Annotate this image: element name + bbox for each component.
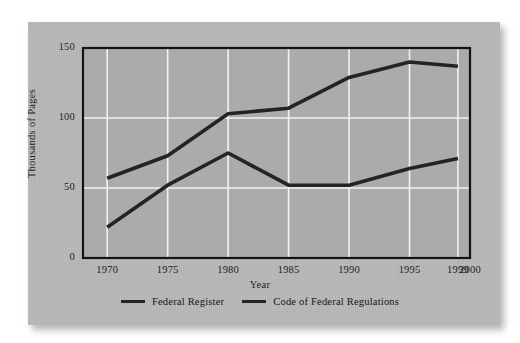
y-tick-label: 100 [41, 111, 75, 122]
x-tick-label: 1990 [324, 264, 374, 275]
line-chart-figure: 050100150 197019751980198519901995199920… [0, 0, 520, 343]
y-tick-label: 150 [41, 41, 75, 52]
legend-item-1[interactable]: Federal Register [121, 296, 224, 307]
chart-plot-area [0, 0, 520, 343]
y-tick-label: 0 [41, 251, 75, 262]
x-tick-label: 1970 [82, 264, 132, 275]
x-tick-label: 2000 [445, 264, 495, 275]
x-tick-label: 1980 [203, 264, 253, 275]
line-swatch-icon [242, 300, 266, 304]
x-axis-title: Year [0, 279, 520, 290]
x-tick-label: 1995 [385, 264, 435, 275]
legend-label: Federal Register [152, 296, 224, 307]
y-tick-label: 50 [41, 181, 75, 192]
plot-background [83, 48, 470, 258]
chart-screenshot: 050100150 197019751980198519901995199920… [0, 0, 520, 343]
legend-label: Code of Federal Regulations [273, 296, 399, 307]
y-axis-title: Thousands of Pages [26, 79, 37, 189]
legend-item-2[interactable]: Code of Federal Regulations [242, 296, 399, 307]
line-swatch-icon [121, 300, 145, 304]
chart-legend: Federal RegisterCode of Federal Regulati… [0, 296, 520, 307]
x-tick-label: 1985 [264, 264, 314, 275]
x-tick-label: 1975 [143, 264, 193, 275]
